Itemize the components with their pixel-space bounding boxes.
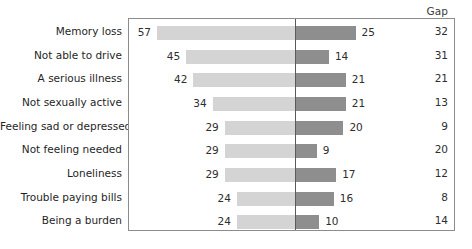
category-label-column: Memory lossNot able to driveA serious il… <box>0 18 122 231</box>
bar-right <box>295 26 356 40</box>
center-axis-line <box>295 19 296 230</box>
bar-right-value: 20 <box>349 120 362 135</box>
bar-left <box>225 144 295 158</box>
bar-right-value: 25 <box>362 25 375 40</box>
bar-left <box>225 168 295 182</box>
bar-right-value: 16 <box>340 191 353 206</box>
bar-left <box>237 192 295 206</box>
bar-right <box>295 121 343 135</box>
bar-right <box>295 50 329 64</box>
bar-left <box>157 26 295 40</box>
bar-right <box>295 168 336 182</box>
gap-value: 14 <box>398 213 448 228</box>
bar-right <box>295 192 334 206</box>
bar-right-value: 14 <box>335 49 348 64</box>
category-label: Loneliness <box>0 166 122 181</box>
bar-right <box>295 97 346 111</box>
category-label: Being a burden <box>0 213 122 228</box>
bar-left <box>213 97 295 111</box>
bar-right-value: 21 <box>352 72 365 87</box>
bar-left-value: 45 <box>152 49 180 64</box>
gap-value: 31 <box>398 48 448 63</box>
bar-left-value: 29 <box>191 167 219 182</box>
bar-left <box>193 73 295 87</box>
bar-left-value: 24 <box>203 214 231 229</box>
bar-left <box>186 50 295 64</box>
bar-left-value: 29 <box>191 120 219 135</box>
bar-left <box>225 121 295 135</box>
gap-value: 13 <box>398 95 448 110</box>
bar-right-value: 10 <box>325 214 338 229</box>
bar-right-value: 9 <box>323 143 330 158</box>
gap-column-header: Gap <box>398 5 448 17</box>
category-label: Not able to drive <box>0 48 122 63</box>
bar-left-value: 57 <box>123 25 151 40</box>
bar-right <box>295 144 317 158</box>
bar-left <box>237 215 295 229</box>
gap-value: 32 <box>398 24 448 39</box>
gap-value: 20 <box>398 142 448 157</box>
category-label: Feeling sad or depressed <box>0 119 122 134</box>
bar-right-value: 17 <box>342 167 355 182</box>
bar-right <box>295 73 346 87</box>
bar-left-value: 29 <box>191 143 219 158</box>
gap-value: 8 <box>398 190 448 205</box>
bar-left-value: 42 <box>159 72 187 87</box>
bar-right-value: 21 <box>352 96 365 111</box>
bar-right <box>295 215 319 229</box>
category-label: Not sexually active <box>0 95 122 110</box>
category-label: Memory loss <box>0 24 122 39</box>
bar-left-value: 24 <box>203 191 231 206</box>
category-label: A serious illness <box>0 71 122 86</box>
category-label: Trouble paying bills <box>0 190 122 205</box>
gap-value: 12 <box>398 166 448 181</box>
gap-value-column: 3231211392012814 <box>398 18 448 231</box>
diverging-bar-chart: Gap Memory lossNot able to driveA seriou… <box>0 0 472 249</box>
gap-value: 9 <box>398 119 448 134</box>
gap-value: 21 <box>398 71 448 86</box>
category-label: Not feeling needed <box>0 142 122 157</box>
bar-left-value: 34 <box>179 96 207 111</box>
